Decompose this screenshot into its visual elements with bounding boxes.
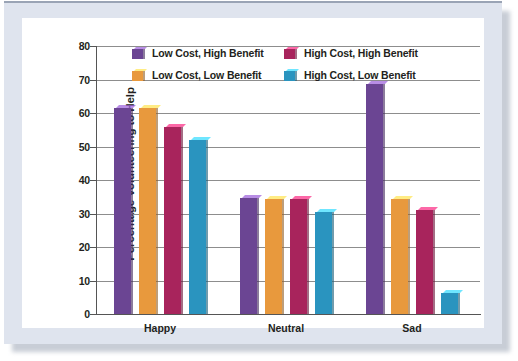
- y-axis-tick: [90, 214, 97, 215]
- y-axis-tick-label: 10: [79, 275, 90, 287]
- bar-face: [189, 140, 206, 314]
- bar-top-bevel: [116, 105, 136, 108]
- bar: [441, 293, 460, 314]
- legend-swatch-face: [284, 49, 295, 59]
- legend-item[interactable]: Low Cost, Low Benefit: [132, 69, 284, 81]
- legend-swatch-top-bevel: [134, 47, 147, 49]
- legend-swatch-side-bevel: [143, 49, 145, 59]
- y-axis-tick: [90, 46, 97, 47]
- chart-page: Percentage Volunteering to Help 01020304…: [0, 0, 518, 361]
- bar-side-bevel: [332, 212, 334, 314]
- legend-swatch-top-bevel: [286, 47, 299, 49]
- bar: [265, 199, 284, 314]
- legend-swatch-face: [132, 49, 143, 59]
- bar-top-bevel: [242, 195, 262, 198]
- y-axis-tick-label: 50: [79, 141, 90, 153]
- bar-top-bevel: [418, 207, 438, 210]
- y-axis-tick-label: 30: [79, 208, 90, 220]
- y-axis-tick-label: 60: [79, 107, 90, 119]
- bar-face: [139, 108, 156, 314]
- bar-side-bevel: [156, 108, 158, 314]
- legend-label: High Cost, Low Benefit: [304, 69, 416, 81]
- chart-legend: Low Cost, High BenefitHigh Cost, High Be…: [132, 42, 437, 86]
- y-axis-tick: [90, 314, 97, 315]
- legend-row: Low Cost, Low BenefitHigh Cost, Low Bene…: [132, 64, 437, 86]
- bar: [315, 212, 334, 314]
- bar: [139, 108, 158, 314]
- legend-label: High Cost, High Benefit: [304, 47, 418, 59]
- bar-face: [240, 198, 257, 314]
- bar: [114, 108, 133, 314]
- bar-face: [416, 210, 433, 314]
- bar-side-bevel: [181, 127, 183, 314]
- legend-swatch-side-bevel: [295, 71, 297, 81]
- legend-swatch-icon: [132, 47, 145, 59]
- y-axis-tick: [90, 80, 97, 81]
- bar-side-bevel: [131, 108, 133, 314]
- bar-top-bevel: [141, 105, 161, 108]
- bar-face: [366, 84, 383, 314]
- y-axis-tick: [90, 147, 97, 148]
- legend-swatch-top-bevel: [286, 69, 299, 71]
- legend-item[interactable]: High Cost, High Benefit: [284, 47, 418, 59]
- bar-face: [114, 108, 131, 314]
- bar-face: [164, 127, 181, 314]
- bar-face: [315, 212, 332, 314]
- legend-label: Low Cost, High Benefit: [152, 47, 264, 59]
- legend-swatch-icon: [284, 69, 297, 81]
- y-axis-tick-label: 40: [79, 174, 90, 186]
- bar-top-bevel: [317, 209, 337, 212]
- x-axis-label: Neutral: [268, 322, 304, 334]
- x-axis-label: Sad: [402, 322, 421, 334]
- y-axis-tick: [90, 180, 97, 181]
- bar-side-bevel: [206, 140, 208, 314]
- legend-swatch-face: [132, 71, 143, 81]
- bar: [189, 140, 208, 314]
- legend-swatch-face: [284, 71, 295, 81]
- bar-side-bevel: [458, 293, 460, 314]
- bar: [416, 210, 435, 314]
- y-axis-tick-label: 70: [79, 74, 90, 86]
- bar: [164, 127, 183, 314]
- y-axis-tick: [90, 113, 97, 114]
- y-axis-tick: [90, 281, 97, 282]
- legend-swatch-top-bevel: [134, 69, 147, 71]
- legend-swatch-icon: [284, 47, 297, 59]
- bar-face: [391, 199, 408, 314]
- bar: [391, 199, 410, 314]
- legend-swatch-icon: [132, 69, 145, 81]
- bar-side-bevel: [257, 198, 259, 314]
- bar-top-bevel: [443, 290, 463, 293]
- y-axis-tick-label: 20: [79, 241, 90, 253]
- bar-side-bevel: [307, 199, 309, 314]
- plot-area: HappyNeutralSad: [97, 46, 480, 314]
- bar-top-bevel: [393, 196, 413, 199]
- chart-figure: Percentage Volunteering to Help 01020304…: [22, 18, 484, 328]
- legend-label: Low Cost, Low Benefit: [152, 69, 261, 81]
- y-axis-tick-label: 80: [79, 40, 90, 52]
- legend-row: Low Cost, High BenefitHigh Cost, High Be…: [132, 42, 437, 64]
- bar-side-bevel: [383, 84, 385, 314]
- y-axis-tick-labels: 01020304050607080: [62, 46, 90, 315]
- bar-top-bevel: [267, 196, 287, 199]
- bar: [240, 198, 259, 314]
- bar-face: [290, 199, 307, 314]
- bar-side-bevel: [433, 210, 435, 314]
- bar-face: [441, 293, 458, 314]
- y-axis-tick: [90, 247, 97, 248]
- legend-swatch-side-bevel: [295, 49, 297, 59]
- x-axis-label: Happy: [144, 322, 176, 334]
- bar: [366, 84, 385, 314]
- bar-top-bevel: [166, 124, 186, 127]
- bar-face: [265, 199, 282, 314]
- legend-swatch-side-bevel: [143, 71, 145, 81]
- legend-item[interactable]: High Cost, Low Benefit: [284, 69, 416, 81]
- bar-side-bevel: [408, 199, 410, 314]
- bar-side-bevel: [282, 199, 284, 314]
- bar-top-bevel: [191, 137, 211, 140]
- bar-top-bevel: [292, 196, 312, 199]
- bar: [290, 199, 309, 314]
- x-axis-line: [96, 314, 481, 315]
- legend-item[interactable]: Low Cost, High Benefit: [132, 47, 284, 59]
